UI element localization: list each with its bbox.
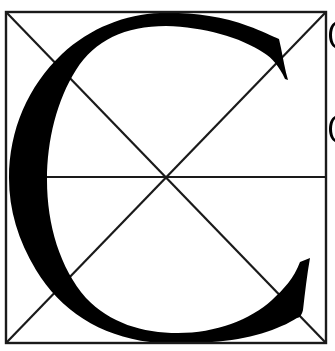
letter-construction-diagram: Construction of the capital letter C C — [0, 0, 335, 351]
construction-svg — [0, 0, 335, 351]
